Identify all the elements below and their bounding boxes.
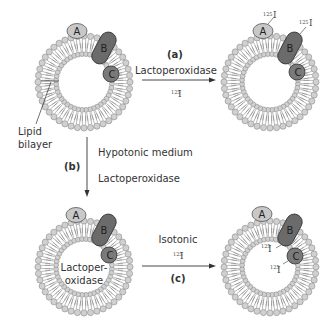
lipid-head [62, 37, 68, 43]
lipid-head [46, 49, 52, 55]
lipid-head [280, 308, 286, 314]
lipid-head [125, 66, 131, 72]
lipid-head [35, 264, 41, 270]
lipid-head [232, 109, 238, 115]
lipid-head [126, 270, 132, 276]
lipid-head [225, 98, 231, 104]
protein-a-label: A [74, 26, 81, 37]
lipid-head [123, 60, 129, 66]
lipid-head [312, 85, 318, 91]
lipid-head [46, 294, 52, 300]
lipid-head [311, 92, 317, 98]
lipid-head [309, 245, 315, 251]
inside-enzyme-line2: oxidase [65, 275, 103, 286]
lipid-head [286, 121, 292, 127]
step-a-label: (a) [167, 49, 183, 60]
lipid-head [312, 270, 318, 276]
lipid-head [223, 251, 229, 257]
lipid-head [37, 277, 43, 283]
lipid-head [125, 277, 131, 283]
lipid-head [254, 123, 260, 129]
lipid-head [260, 309, 266, 315]
lipid-head [302, 109, 308, 115]
lipid-head [242, 118, 248, 124]
lipid-head [273, 309, 279, 315]
lipid-head [302, 49, 308, 55]
lipid-head [242, 225, 248, 231]
lipid-head [237, 114, 243, 120]
lipid-head [232, 234, 238, 240]
lipid-head [35, 85, 41, 91]
lipid-head [223, 277, 229, 283]
lipid-head [225, 60, 231, 66]
lipid-head [74, 124, 80, 130]
lipid-head [37, 92, 43, 98]
lipid-head [46, 109, 52, 115]
step-c-reagent: I [180, 251, 184, 261]
lipid-head [280, 123, 286, 129]
protein-b-label: B [101, 43, 108, 54]
lipid-head [62, 222, 68, 228]
labeling-diagram: A B C A B C 125 I 125 I A B C Lactoper- … [0, 0, 333, 323]
lipid-head [39, 283, 45, 289]
protein-b-label: B [287, 225, 294, 236]
lipid-head [306, 289, 312, 295]
lipid-head [35, 257, 41, 263]
protein-c-label: C [107, 250, 114, 261]
lipid-head [273, 124, 279, 130]
protein-c-label: C [295, 67, 302, 78]
lipid-head [126, 85, 132, 91]
vesicle-2-proteins: A B C 125 I 125 I [253, 10, 313, 80]
lipid-head [39, 60, 45, 66]
lipid-head [56, 303, 62, 309]
lipid-head [120, 104, 126, 110]
iodine-tag-a: I [273, 10, 277, 20]
step-a-reagent: I [178, 89, 182, 99]
protein-b-label: B [287, 43, 294, 54]
lipid-head [225, 283, 231, 289]
lipid-head [35, 79, 41, 85]
lipid-head [116, 49, 122, 55]
lipid-head [248, 37, 254, 43]
lipid-head [292, 303, 298, 309]
lipid-head [302, 234, 308, 240]
lipid-head [248, 222, 254, 228]
lipid-bilayer-label-line1: Lipid [18, 126, 42, 137]
protein-a-label: A [260, 26, 267, 37]
lipid-head [312, 72, 318, 78]
lipid-head [42, 54, 48, 60]
vesicle-1-bilayer [35, 33, 133, 131]
lipid-head [306, 54, 312, 60]
lipid-head [221, 72, 227, 78]
lipid-head [221, 79, 227, 85]
iodine-tag-a-sup: 125 [263, 11, 273, 17]
arrow-c: Isotonic 125 I (c) [142, 234, 216, 284]
lipid-head [228, 289, 234, 295]
step-c-label: (c) [170, 273, 185, 284]
arrow-b: Hypotonic medium (b) Lactoperoxidase [64, 137, 193, 197]
step-b-enzyme: Lactoperoxidase [98, 173, 180, 184]
lipid-head [228, 54, 234, 60]
lipid-head [125, 251, 131, 257]
lipid-head [74, 309, 80, 315]
lipid-head [232, 49, 238, 55]
protein-b-label: B [101, 225, 108, 236]
lipid-head [120, 289, 126, 295]
lipid-head [306, 104, 312, 110]
lipid-head [94, 308, 100, 314]
lipid-head [111, 114, 117, 120]
lipid-head [221, 264, 227, 270]
step-c-condition: Isotonic [159, 234, 198, 245]
lipid-head [87, 309, 93, 315]
lipid-head [116, 294, 122, 300]
step-a-enzyme: Lactoperoxidase [135, 65, 217, 76]
lipid-head [313, 264, 319, 270]
lipid-head [286, 306, 292, 312]
lipid-head [237, 44, 243, 50]
lipid-head [62, 121, 68, 127]
lipid-head [116, 109, 122, 115]
lipid-head [127, 79, 133, 85]
protein-c-label: C [109, 69, 116, 80]
lipid-head [232, 294, 238, 300]
lipid-head [56, 40, 62, 46]
